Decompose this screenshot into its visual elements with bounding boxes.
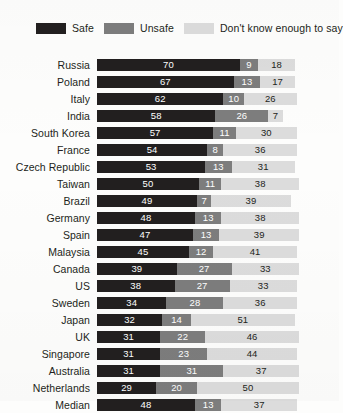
bar-segment-safe: 57 bbox=[97, 127, 213, 139]
bar-segment-dont-know: 7 bbox=[268, 110, 282, 122]
bar-segment-value: 36 bbox=[255, 145, 266, 155]
bar-segment-value: 45 bbox=[138, 247, 149, 257]
row-label: Spain bbox=[0, 229, 90, 241]
stacked-bar: 342836 bbox=[97, 297, 301, 309]
bar-segment-value: 27 bbox=[199, 264, 210, 274]
bar-segment-dont-know: 26 bbox=[244, 93, 297, 105]
bar-segment-value: 28 bbox=[190, 298, 201, 308]
bar-segment-value: 39 bbox=[131, 264, 142, 274]
chart-legend: Safe Unsafe Don't know enough to say bbox=[36, 20, 343, 36]
stacked-bar: 312246 bbox=[97, 331, 301, 343]
bar-segment-dont-know: 39 bbox=[219, 229, 299, 241]
legend-item-unsafe: Unsafe bbox=[104, 23, 174, 34]
bar-segment-safe: 67 bbox=[97, 76, 234, 88]
bar-segment-value: 46 bbox=[247, 332, 258, 342]
bar-segment-unsafe: 12 bbox=[189, 246, 213, 258]
stacked-bar: 58267 bbox=[97, 110, 301, 122]
chart-row: Germany481338 bbox=[0, 209, 339, 226]
chart-row: Malaysia451241 bbox=[0, 243, 339, 260]
bar-segment-value: 47 bbox=[140, 230, 151, 240]
chart-row: Australia313137 bbox=[0, 362, 339, 379]
bar-segment-unsafe: 13 bbox=[205, 161, 232, 173]
bar-segment-value: 48 bbox=[141, 400, 152, 410]
row-label: US bbox=[0, 280, 90, 292]
stacked-bar: 49739 bbox=[97, 195, 301, 207]
bar-segment-value: 37 bbox=[256, 366, 267, 376]
chart-row: Taiwan501138 bbox=[0, 175, 339, 192]
bar-segment-value: 29 bbox=[121, 383, 132, 393]
row-label: Italy bbox=[0, 93, 90, 105]
row-label: Germany bbox=[0, 212, 90, 224]
bar-segment-unsafe: 23 bbox=[160, 348, 207, 360]
row-label: Malaysia bbox=[0, 246, 90, 258]
bar-segment-safe: 29 bbox=[97, 382, 156, 394]
stacked-bar: 313137 bbox=[97, 365, 301, 377]
chart-row: US382733 bbox=[0, 277, 339, 294]
bar-segment-value: 7 bbox=[201, 196, 206, 206]
bar-segment-value: 70 bbox=[163, 60, 174, 70]
bar-segment-safe: 31 bbox=[97, 365, 160, 377]
stacked-bar: 70918 bbox=[97, 59, 301, 71]
stacked-bar: 312344 bbox=[97, 348, 301, 360]
row-label: Czech Republic bbox=[0, 161, 90, 173]
bar-segment-value: 26 bbox=[265, 94, 276, 104]
bar-segment-value: 31 bbox=[123, 366, 134, 376]
stacked-bar: 531331 bbox=[97, 161, 301, 173]
chart-row: India58267 bbox=[0, 107, 339, 124]
bar-segment-value: 13 bbox=[242, 77, 253, 87]
stacked-bar: 451241 bbox=[97, 246, 301, 258]
bar-segment-safe: 53 bbox=[97, 161, 205, 173]
bar-segment-unsafe: 13 bbox=[195, 399, 222, 411]
bar-segment-dont-know: 39 bbox=[211, 195, 291, 207]
bar-segment-value: 10 bbox=[228, 94, 239, 104]
bar-segment-value: 34 bbox=[126, 298, 137, 308]
stacked-bar: 321451 bbox=[97, 314, 301, 326]
bar-segment-value: 53 bbox=[146, 162, 157, 172]
bar-segment-value: 11 bbox=[219, 128, 229, 138]
row-label: UK bbox=[0, 331, 90, 343]
bar-segment-dont-know: 36 bbox=[223, 144, 296, 156]
bar-segment-value: 13 bbox=[201, 230, 212, 240]
stacked-bar: 571130 bbox=[97, 127, 301, 139]
stacked-bar: 54836 bbox=[97, 144, 301, 156]
bar-segment-dont-know: 44 bbox=[207, 348, 297, 360]
chart-row: UK312246 bbox=[0, 328, 339, 345]
bar-segment-value: 67 bbox=[160, 77, 171, 87]
stacked-bar: 621026 bbox=[97, 93, 301, 105]
bar-segment-safe: 39 bbox=[97, 263, 177, 275]
bar-segment-value: 49 bbox=[142, 196, 153, 206]
bar-segment-value: 30 bbox=[261, 128, 272, 138]
bar-segment-unsafe: 31 bbox=[160, 365, 223, 377]
bar-segment-value: 12 bbox=[196, 247, 207, 257]
chart-row: Sweden342836 bbox=[0, 294, 339, 311]
bar-segment-safe: 50 bbox=[97, 178, 199, 190]
chart-row: South Korea571130 bbox=[0, 124, 339, 141]
bar-segment-value: 41 bbox=[250, 247, 261, 257]
bar-segment-value: 9 bbox=[246, 60, 251, 70]
bar-segment-value: 37 bbox=[254, 400, 265, 410]
bar-segment-value: 39 bbox=[254, 230, 265, 240]
bar-segment-safe: 31 bbox=[97, 348, 160, 360]
bar-segment-safe: 58 bbox=[97, 110, 215, 122]
bar-segment-safe: 54 bbox=[97, 144, 207, 156]
bar-segment-value: 33 bbox=[258, 281, 269, 291]
stacked-bar: 501138 bbox=[97, 178, 301, 190]
bar-segment-dont-know: 36 bbox=[223, 297, 296, 309]
bar-segment-value: 39 bbox=[246, 196, 257, 206]
stacked-bar: 392733 bbox=[97, 263, 301, 275]
stacked-bar: 481337 bbox=[97, 399, 301, 411]
row-label: India bbox=[0, 110, 90, 122]
bar-segment-value: 33 bbox=[260, 264, 271, 274]
bar-segment-dont-know: 33 bbox=[230, 280, 297, 292]
chart-row: Japan321451 bbox=[0, 311, 339, 328]
row-label: Netherlands bbox=[0, 382, 90, 394]
bar-segment-unsafe: 11 bbox=[213, 127, 235, 139]
bar-segment-dont-know: 46 bbox=[205, 331, 299, 343]
bar-segment-dont-know: 41 bbox=[213, 246, 297, 258]
bar-segment-safe: 32 bbox=[97, 314, 162, 326]
bar-segment-unsafe: 7 bbox=[197, 195, 211, 207]
chart-row: France54836 bbox=[0, 141, 339, 158]
legend-swatch-dont-know-icon bbox=[184, 23, 214, 34]
chart-row: Netherlands292050 bbox=[0, 379, 339, 396]
stacked-bar: 481338 bbox=[97, 212, 301, 224]
